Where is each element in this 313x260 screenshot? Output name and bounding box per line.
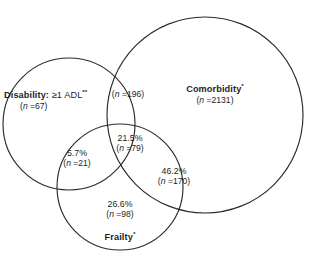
region-frailty-only-percent: 26.6% — [83, 199, 157, 209]
region-disability-frailty: 5.7% (n =21) — [45, 148, 109, 169]
disability-count-value: =67) — [28, 101, 48, 111]
region-disability-frailty-value: =21) — [71, 158, 91, 168]
region-triple-percent: 21.5% — [96, 133, 164, 143]
frailty-title: Frailty* — [86, 232, 154, 243]
region-triple-value: =79) — [124, 143, 144, 153]
disability-set-label: Disability: ≥1 ADL** (n =67) — [4, 90, 112, 111]
region-disability-comorbidity: (n =196) — [98, 89, 158, 99]
disability-title: Disability: ≥1 ADL** — [4, 90, 112, 101]
region-disability-comorbidity-value: =196) — [120, 89, 145, 99]
region-frailty-only: 26.6% (n =98) — [83, 199, 157, 220]
venn-diagram-figure: Disability: ≥1 ADL** (n =67) Comorbidity… — [0, 0, 313, 260]
region-disability-comorbidity-count: (n =196) — [98, 89, 158, 99]
region-frailty-comorbidity-value: =170) — [166, 176, 191, 186]
disability-superscript: ** — [82, 88, 87, 95]
frailty-superscript: * — [133, 230, 136, 237]
region-disability-frailty-count: (n =21) — [45, 158, 109, 168]
region-disability-frailty-percent: 5.7% — [45, 148, 109, 158]
comorbidity-set-label: Comorbidity* (n =2131) — [163, 84, 267, 105]
disability-title-rest: ≥1 ADL — [52, 90, 83, 100]
comorbidity-count-value: =2131) — [204, 95, 233, 105]
comorbidity-superscript: * — [241, 82, 244, 89]
comorbidity-count: (n =2131) — [163, 95, 267, 105]
region-frailty-comorbidity-percent: 46.2% — [141, 166, 207, 176]
disability-title-bold: Disability: — [4, 90, 49, 100]
region-frailty-only-count: (n =98) — [83, 209, 157, 219]
region-frailty-comorbidity: 46.2% (n =170) — [141, 166, 207, 187]
region-frailty-only-value: =98) — [114, 209, 134, 219]
venn-circles-svg — [0, 0, 313, 260]
region-frailty-comorbidity-count: (n =170) — [141, 176, 207, 186]
frailty-title-bold: Frailty — [105, 232, 133, 242]
comorbidity-title-bold: Comorbidity — [186, 84, 241, 94]
frailty-set-label: Frailty* — [86, 232, 154, 243]
disability-count: (n =67) — [4, 101, 112, 111]
comorbidity-title: Comorbidity* — [163, 84, 267, 95]
